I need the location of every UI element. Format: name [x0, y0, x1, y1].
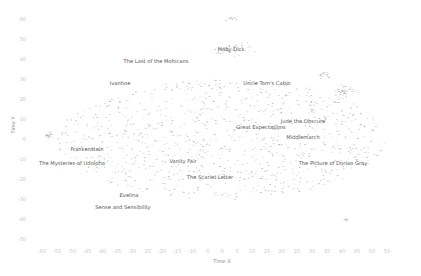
x-tick-label: -55: [53, 248, 61, 254]
y-tick-label: -30: [18, 196, 26, 202]
book-label: Ivanhoe: [110, 80, 131, 86]
book-label: Jude the Obscure: [280, 118, 326, 125]
x-tick-label: 20: [279, 248, 285, 254]
x-tick-label: 30: [309, 248, 315, 254]
book-label: Vanity Fair: [169, 158, 197, 165]
x-tick-label: -35: [113, 248, 121, 254]
x-tick-label: 0: [220, 248, 223, 254]
x-axis-title: Time X: [212, 258, 231, 264]
y-tick-label: 10: [20, 116, 26, 122]
x-tick-label: -20: [158, 248, 166, 254]
y-axis-ticks: 6050403020100-10-20-30-40-50: [18, 16, 26, 242]
x-tick-label: -30: [128, 248, 136, 254]
book-label: Great Expectations: [236, 124, 286, 131]
book-label: The Last of the Mohicans: [123, 58, 189, 64]
x-tick-label: 45: [354, 248, 360, 254]
y-axis-title: Time Y: [10, 116, 16, 135]
x-tick-label: 35: [324, 248, 330, 254]
x-tick-label: -60: [38, 248, 46, 254]
x-axis-ticks: -60-55-50-45-40-35-30-25-20-15-10-505101…: [38, 248, 390, 254]
y-tick-label: 40: [20, 56, 26, 62]
x-tick-label: -45: [83, 248, 91, 254]
y-tick-label: 60: [20, 16, 26, 22]
book-label: The Picture of Dorian Gray: [298, 160, 368, 167]
book-label: Moby Dick: [218, 46, 245, 53]
x-tick-label: -15: [173, 248, 181, 254]
book-label: Uncle Tom's Cabin: [243, 80, 290, 86]
x-tick-label: 15: [264, 248, 270, 254]
x-tick-label: -50: [68, 248, 76, 254]
x-tick-label: -25: [143, 248, 151, 254]
book-label: The Mysteries of Udolpho: [38, 160, 105, 167]
x-tick-label: 5: [235, 248, 238, 254]
y-tick-label: 30: [20, 76, 26, 82]
y-tick-label: 0: [23, 136, 26, 142]
book-label: Evelina: [120, 192, 139, 198]
x-tick-label: 55: [384, 248, 390, 254]
x-tick-label: 10: [249, 248, 255, 254]
book-label: Sense and Sensibility: [95, 204, 150, 211]
x-tick-label: -40: [98, 248, 106, 254]
y-tick-label: 50: [20, 36, 26, 42]
y-tick-label: -40: [18, 216, 26, 222]
book-label: The Scarlet Letter: [186, 174, 234, 180]
x-tick-label: -5: [205, 248, 210, 254]
y-tick-label: -20: [18, 176, 26, 182]
book-label: Frankenstein: [70, 146, 103, 152]
book-label: Middlemarch: [286, 134, 320, 140]
y-tick-label: -10: [18, 156, 26, 162]
data-points: [45, 17, 386, 222]
scatter-chart: 6050403020100-10-20-30-40-50 -60-55-50-4…: [0, 0, 421, 276]
x-tick-label: 40: [339, 248, 345, 254]
x-tick-label: -10: [188, 248, 196, 254]
y-tick-label: 20: [20, 96, 26, 102]
x-tick-label: 50: [369, 248, 375, 254]
book-labels: Moby DickThe Last of the MohicansIvanhoe…: [38, 46, 367, 211]
x-tick-label: 25: [294, 248, 300, 254]
y-tick-label: -50: [18, 236, 26, 242]
